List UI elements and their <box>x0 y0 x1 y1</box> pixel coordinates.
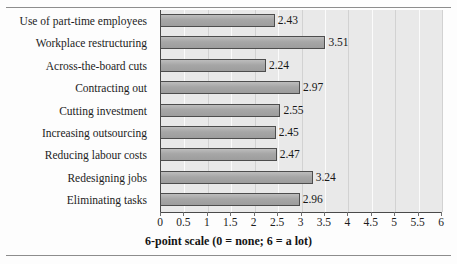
bar <box>161 81 300 94</box>
bar-row: 3.24 <box>161 167 442 189</box>
bar <box>161 59 266 72</box>
bar <box>161 36 325 49</box>
category-label: Cutting investment <box>59 100 147 122</box>
bar-row: 2.96 <box>161 189 442 211</box>
bar <box>161 171 313 184</box>
category-label-axis: Use of part-time employeesWorkplace rest… <box>0 10 152 212</box>
cropped-title <box>6 0 451 6</box>
bar <box>161 148 277 161</box>
bar-value-label: 2.45 <box>279 122 299 144</box>
x-axis-tick-label: 2 <box>251 216 257 228</box>
bar-row: 2.47 <box>161 144 442 166</box>
x-axis-tick-label: 3 <box>298 216 304 228</box>
x-axis-tick-label: 0 <box>157 216 163 228</box>
category-label: Redesigning jobs <box>67 167 147 189</box>
x-axis-tick-label: 5 <box>391 216 397 228</box>
bar-row: 2.45 <box>161 122 442 144</box>
bar-chart: Use of part-time employeesWorkplace rest… <box>0 10 457 220</box>
category-label: Reducing labour costs <box>45 144 147 166</box>
x-axis-tick-label: 5.5 <box>410 216 424 228</box>
gridline <box>442 10 443 212</box>
bar-row: 3.51 <box>161 32 442 54</box>
category-label: Contracting out <box>75 77 147 99</box>
x-axis-tick-label: 4 <box>344 216 350 228</box>
x-axis-tick-label: 1 <box>204 216 210 228</box>
bar-value-label: 2.97 <box>303 77 323 99</box>
bar-value-label: 3.24 <box>316 167 336 189</box>
bar-value-label: 2.43 <box>278 10 298 32</box>
bar <box>161 104 280 117</box>
category-label: Workplace restructuring <box>36 32 147 54</box>
category-label: Eliminating tasks <box>67 189 147 211</box>
category-label: Across-the-board cuts <box>46 55 147 77</box>
figure-container: Use of part-time employeesWorkplace rest… <box>0 0 457 264</box>
top-rule <box>6 7 451 8</box>
category-label: Increasing outsourcing <box>42 122 147 144</box>
bar <box>161 193 300 206</box>
bar <box>161 126 276 139</box>
bar-value-label: 2.47 <box>280 144 300 166</box>
bar-row: 2.43 <box>161 10 442 32</box>
bar-value-label: 2.55 <box>283 100 303 122</box>
bar-value-label: 3.51 <box>328 32 348 54</box>
x-axis-tick-label: 4.5 <box>364 216 378 228</box>
plot-area: 2.433.512.242.972.552.452.473.242.96 <box>160 10 442 212</box>
x-axis-title: 6-point scale (0 = none; 6 = a lot) <box>0 234 457 249</box>
x-axis-tick-label: 2.5 <box>270 216 284 228</box>
bottom-rule <box>6 255 451 256</box>
bar-row: 2.24 <box>161 55 442 77</box>
bar-value-label: 2.24 <box>269 55 289 77</box>
x-axis-tick-label: 3.5 <box>317 216 331 228</box>
bar-value-label: 2.96 <box>303 189 323 211</box>
bar-row: 2.55 <box>161 100 442 122</box>
x-axis-tick-label: 6 <box>438 216 444 228</box>
category-label: Use of part-time employees <box>20 10 147 32</box>
x-axis-tick-label: 1.5 <box>223 216 237 228</box>
x-axis-tick-label: 0.5 <box>176 216 190 228</box>
bar <box>161 14 275 27</box>
bar-row: 2.97 <box>161 77 442 99</box>
